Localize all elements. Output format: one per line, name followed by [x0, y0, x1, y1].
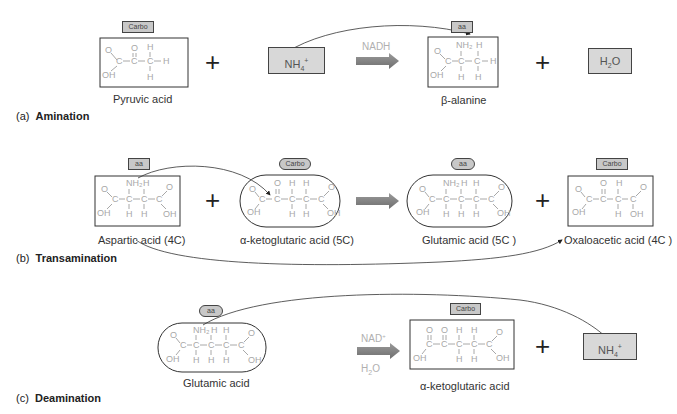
svg-text:C: C — [259, 194, 266, 204]
section-a-title: (a) Amination — [16, 110, 89, 122]
svg-text:NH₂: NH₂ — [443, 178, 460, 188]
svg-text:H: H — [289, 209, 296, 219]
svg-text:H: H — [473, 209, 480, 219]
svg-text:O: O — [248, 328, 255, 338]
glutamic-acid-label-b: Glutamic acid (5C ) — [422, 234, 516, 246]
svg-text:C: C — [289, 194, 296, 204]
svg-text:NH₂: NH₂ — [126, 178, 143, 188]
reaction-arrow-b — [356, 193, 399, 209]
svg-text:OH: OH — [327, 208, 341, 218]
svg-text:H: H — [456, 325, 463, 335]
svg-text:OH: OH — [572, 207, 586, 217]
svg-text:C: C — [441, 339, 448, 349]
section-c-letter: (c) — [16, 392, 29, 404]
svg-text:OH: OH — [248, 355, 262, 365]
svg-text:OH: OH — [97, 208, 111, 218]
section-a-heading: Amination — [36, 110, 90, 122]
svg-text:C: C — [458, 194, 465, 204]
svg-text:OH: OH — [413, 353, 427, 363]
svg-text:C: C — [193, 340, 200, 350]
svg-text:H: H — [147, 42, 154, 52]
svg-text:OH: OH — [496, 353, 510, 363]
ammonium-box-c: NH4+ — [583, 333, 637, 360]
svg-text:H: H — [443, 209, 450, 219]
svg-text:O: O — [498, 182, 505, 192]
alpha-ketoglutaric-structure-c: O C C O C H H C H H C O OH OH — [410, 320, 514, 369]
svg-text:H: H — [147, 72, 154, 82]
beta-alanine-label: β-alanine — [441, 94, 486, 106]
svg-text:OH: OH — [166, 354, 180, 364]
svg-text:H: H — [303, 178, 310, 188]
svg-text:NH₂: NH₂ — [193, 325, 210, 335]
svg-text:C: C — [458, 56, 465, 66]
carbo-tag-pyruvic: Carbo — [122, 21, 154, 33]
svg-text:H: H — [476, 40, 483, 50]
svg-text:O: O — [640, 182, 647, 192]
svg-text:C: C — [615, 194, 622, 204]
nadh-condition: NADH — [362, 41, 390, 52]
section-c-title: (c) Deamination — [16, 392, 101, 404]
svg-text:O: O — [274, 178, 281, 188]
section-b-heading: Transamination — [36, 252, 117, 264]
svg-text:H: H — [458, 209, 465, 219]
oxaloacetic-acid-label: Oxaloacetic acid (4C ) — [564, 234, 672, 246]
svg-text:C: C — [180, 340, 187, 350]
svg-text:C: C — [600, 194, 607, 204]
svg-text:H: H — [471, 354, 478, 364]
svg-text:H: H — [143, 178, 150, 188]
beta-alanine-structure: O C C NH₂ H C H H H OH — [428, 37, 498, 87]
glutamic-acid-structure-c: O C C NH₂ H H C H C H H C O OH OH — [158, 323, 266, 372]
aspartic-acid-label: Aspartic acid (4C) — [98, 234, 185, 246]
svg-text:H: H — [473, 178, 480, 188]
svg-text:O: O — [600, 178, 607, 188]
svg-text:OH: OH — [163, 209, 177, 219]
section-c-heading: Deamination — [35, 392, 101, 404]
svg-text:O: O — [328, 182, 335, 192]
svg-text:C: C — [429, 194, 436, 204]
svg-text:OH: OH — [497, 208, 511, 218]
svg-text:O: O — [441, 325, 448, 335]
svg-text:C: C — [303, 194, 310, 204]
svg-text:C: C — [445, 56, 452, 66]
svg-text:OH: OH — [247, 207, 261, 217]
aa-tag-aspartic: aa — [128, 158, 150, 170]
plus-sign: + — [205, 190, 220, 210]
svg-text:C: C — [112, 194, 119, 204]
svg-text:C: C — [471, 339, 478, 349]
ammonium-formula: NH4+ — [598, 344, 622, 356]
alpha-ketoglutaric-label-b: α-ketoglutaric acid (5C) — [240, 234, 354, 246]
section-b-title: (b) Transamination — [16, 252, 117, 264]
reaction-diagram-graphics: O C C O C H H H OH O C C NH₂ H C H — [0, 0, 677, 414]
svg-text:C: C — [131, 56, 138, 66]
svg-text:H: H — [303, 209, 310, 219]
aa-tag-glutamic-b: aa — [451, 158, 475, 170]
svg-text:H: H — [289, 178, 296, 188]
svg-text:C: C — [473, 194, 480, 204]
svg-text:H: H — [211, 325, 218, 335]
svg-text:C: C — [586, 194, 593, 204]
svg-text:O: O — [131, 43, 138, 53]
svg-text:C: C — [208, 340, 215, 350]
svg-text:H: H — [616, 178, 623, 188]
svg-text:O: O — [166, 182, 173, 192]
alpha-ketoglutaric-label-c: α-ketoglutaric acid — [420, 380, 510, 392]
svg-text:C: C — [141, 194, 148, 204]
svg-text:H: H — [490, 56, 497, 66]
svg-text:C: C — [426, 339, 433, 349]
svg-text:OH: OH — [102, 70, 116, 80]
svg-text:C: C — [116, 56, 123, 66]
svg-text:H: H — [458, 72, 465, 82]
ammonium-formula: NH4+ — [285, 58, 309, 70]
ammonium-box-a: NH4+ — [268, 47, 325, 74]
svg-text:OH: OH — [430, 70, 444, 80]
svg-text:O: O — [426, 325, 433, 335]
svg-text:H: H — [141, 209, 148, 219]
svg-text:C: C — [126, 194, 133, 204]
reaction-arrow-c — [357, 343, 400, 359]
svg-text:H: H — [223, 355, 230, 365]
alpha-ketoglutaric-structure-b: O C C O C H H C H H C O OH OH — [240, 175, 341, 227]
svg-text:C: C — [274, 194, 281, 204]
nad-condition: NAD+ — [361, 333, 386, 344]
carbo-tag-ketoglutaric: Carbo — [279, 158, 311, 170]
reaction-arrow-a — [356, 53, 399, 69]
